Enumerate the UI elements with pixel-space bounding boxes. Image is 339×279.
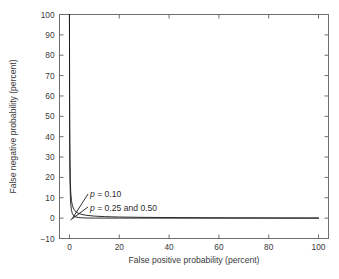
chart-figure: 020406080100−100102030405060708090100Fal… xyxy=(0,0,339,279)
y-tick-label: 100 xyxy=(41,10,55,20)
x-axis-title: False positive probability (percent) xyxy=(129,255,260,265)
x-tick-label: 60 xyxy=(214,242,224,252)
y-tick-label: 90 xyxy=(45,30,55,40)
y-tick-label: 80 xyxy=(45,50,55,60)
y-tick-label: 30 xyxy=(45,152,55,162)
annotation-value: = 0.25 and 0.50 xyxy=(95,203,158,213)
x-tick-label: 20 xyxy=(115,242,125,252)
chart-canvas: 020406080100−100102030405060708090100Fal… xyxy=(0,0,339,279)
y-tick-label: −10 xyxy=(40,234,54,244)
annotation-value: = 0.10 xyxy=(95,189,122,199)
x-tick-label: 100 xyxy=(312,242,326,252)
y-tick-label: 50 xyxy=(45,111,55,121)
y-tick-label: 40 xyxy=(45,132,55,142)
y-tick-label: 0 xyxy=(50,213,55,223)
y-tick-label: 70 xyxy=(45,71,55,81)
annotation-label: p = 0.10 xyxy=(89,189,122,199)
x-tick-label: 0 xyxy=(67,242,72,252)
y-tick-label: 10 xyxy=(45,193,55,203)
y-axis-title: False negative probability (percent) xyxy=(8,59,18,193)
x-tick-label: 40 xyxy=(164,242,174,252)
x-tick-label: 80 xyxy=(264,242,274,252)
annotation-label: p = 0.25 and 0.50 xyxy=(89,203,157,213)
y-tick-label: 60 xyxy=(45,91,55,101)
y-tick-label: 20 xyxy=(45,172,55,182)
